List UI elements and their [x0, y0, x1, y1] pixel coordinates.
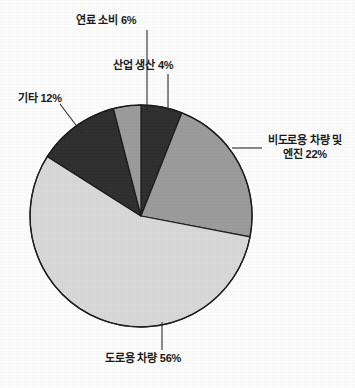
leader-line-other: [60, 104, 82, 133]
slice-label-fuel-consumption: 연료 소비 6%: [76, 14, 136, 27]
pie-chart-figure: 연료 소비 6% 산업 생산 4% 기타 12% 비도로용 차량 및 엔진 22…: [0, 0, 355, 388]
slice-label-industrial-production: 산업 생산 4%: [113, 59, 173, 72]
slice-label-nonroad-vehicles-line2: 엔진 22%: [283, 148, 327, 160]
slice-label-nonroad-vehicles: 비도로용 차량 및 엔진 22%: [256, 133, 354, 161]
slice-label-road-vehicles: 도로용 차량 56%: [105, 352, 181, 365]
slice-label-nonroad-vehicles-line1: 비도로용 차량 및: [268, 134, 342, 146]
pie-chart-canvas: [0, 0, 355, 388]
pie-slices: [30, 105, 252, 327]
slice-label-other: 기타 12%: [18, 92, 62, 105]
